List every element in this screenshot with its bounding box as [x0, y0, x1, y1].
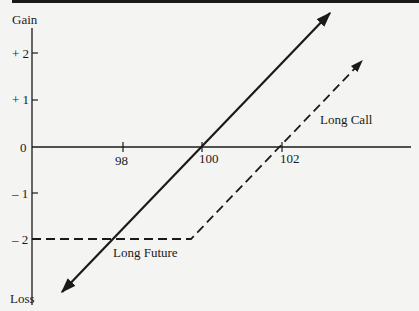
- y-tick-label-0: 0: [20, 140, 27, 155]
- x-tick-label-102: 102: [280, 151, 300, 166]
- gain-label: Gain: [12, 12, 38, 27]
- loss-label: Loss: [10, 291, 35, 306]
- top-border: [12, 0, 419, 3]
- long-future-label: Long Future: [113, 245, 178, 260]
- y-tick-label-2: + 2: [12, 46, 29, 61]
- y-tick-label-1: + 1: [12, 92, 29, 107]
- x-tick-label-100: 100: [199, 151, 219, 166]
- long-call-label: Long Call: [320, 112, 373, 127]
- y-tick-label-m2: – 2: [11, 232, 28, 247]
- payoff-chart: Gain Loss + 2 + 1 0 – 1 – 2 98 100 102 L…: [0, 0, 419, 311]
- x-tick-label-98: 98: [115, 153, 128, 168]
- y-tick-label-m1: – 1: [11, 186, 28, 201]
- y-ticks: [32, 53, 38, 239]
